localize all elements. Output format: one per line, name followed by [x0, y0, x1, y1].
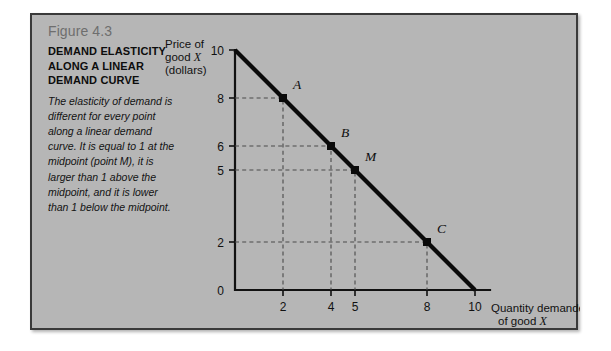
guide-line-point-m	[235, 170, 355, 290]
x-tick-label-4: 4	[328, 300, 335, 314]
point-label-m: M	[364, 149, 377, 164]
y-axis-title-variable: X	[193, 50, 202, 64]
y-axis-title-line2-prefix: good	[165, 51, 194, 63]
x-tick-label-8: 8	[424, 300, 431, 314]
x-axis-tick-labels: 2 4 5 8 10	[280, 300, 482, 314]
point-label-b: B	[341, 125, 349, 140]
x-tick-label-5: 5	[352, 300, 359, 314]
y-tick-label-10: 10	[211, 44, 225, 58]
data-point-labels: A B M C	[292, 77, 447, 236]
point-label-a: A	[292, 77, 302, 92]
x-axis-title-line2: of good X	[498, 314, 548, 328]
demand-curve-chart: 10 8 6 5 2 0 2 4	[32, 15, 580, 332]
y-axis-title-line2: good X	[165, 50, 202, 64]
point-marker-b	[327, 142, 335, 150]
x-tick-label-10: 10	[468, 300, 482, 314]
y-tick-label-5: 5	[217, 164, 224, 178]
x-axis-title-line1: Quantity demanded	[491, 302, 580, 314]
x-axis-title-variable: X	[539, 314, 548, 328]
y-tick-label-8: 8	[217, 92, 224, 106]
figure-panel: Figure 4.3 DEMAND ELASTICITY ALONG A LIN…	[30, 13, 578, 330]
chart-plot-area: 10 8 6 5 2 0 2 4	[32, 15, 580, 332]
y-tick-label-0: 0	[217, 284, 224, 298]
figure-root: Figure 4.3 DEMAND ELASTICITY ALONG A LIN…	[0, 0, 611, 351]
y-axis-title: Price of good X (dollars)	[165, 38, 207, 76]
guide-line-point-a	[235, 98, 283, 290]
point-marker-m	[351, 166, 359, 174]
y-tick-label-2: 2	[217, 236, 224, 250]
point-marker-a	[279, 94, 287, 102]
x-tick-label-2: 2	[280, 300, 287, 314]
y-axis-tick-labels: 10 8 6 5 2 0	[211, 44, 225, 298]
point-marker-c	[423, 238, 431, 246]
point-label-c: C	[437, 221, 447, 236]
y-tick-label-6: 6	[217, 140, 224, 154]
guide-lines	[235, 98, 427, 290]
y-axis-title-line3: (dollars)	[165, 64, 207, 76]
x-axis-title-line2-prefix: of good	[498, 315, 540, 327]
y-axis-title-line1: Price of	[165, 38, 205, 50]
x-axis-title: Quantity demanded of good X	[491, 302, 580, 328]
